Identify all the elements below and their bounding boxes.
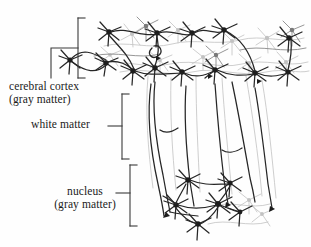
projection-axon-mid-left: [185, 86, 194, 206]
cortical-association-fiber-12: [72, 52, 106, 60]
white-matter-bracket: [122, 94, 129, 159]
faint-cortical-cell-e: [192, 49, 215, 70]
neuroanatomy-figure: cerebral cortex (gray matter) white matt…: [0, 0, 311, 247]
cortical-neuron-3: [98, 22, 121, 46]
label-nucleus: nucleus (gray matter): [37, 185, 133, 210]
mid-cortical-cell-b: [205, 46, 228, 70]
faint-cortical-fiber-1: [104, 38, 304, 46]
faint-axon-6: [262, 80, 276, 198]
nucleus-fiber-2: [178, 205, 217, 208]
nucleus-neuron-5: [186, 214, 211, 240]
label-white-matter: white matter: [31, 118, 90, 131]
faint-axon-2: [171, 78, 176, 190]
mid-cortical-cell-c: [281, 21, 304, 46]
label-nucleus-line1: nucleus: [67, 185, 103, 197]
cortical-neuron-13: [276, 61, 301, 86]
label-cerebral-cortex: cerebral cortex (gray matter): [9, 80, 79, 105]
nucleus-fiber-9: [170, 212, 198, 216]
axon-collateral-2: [222, 148, 242, 152]
axon-collateral-1: [160, 128, 178, 132]
mid-cortical-cell-a: [135, 17, 158, 40]
projection-axon-right: [255, 88, 272, 208]
projection-axon-left-2: [149, 84, 164, 216]
label-cerebral-cortex-line1: cerebral cortex: [9, 80, 79, 92]
cortical-arrowhead-3: [257, 79, 262, 84]
cortical-arrowhead-2: [208, 74, 213, 79]
label-nucleus-line2: (gray matter): [37, 198, 133, 211]
cortical-neuron-2: [143, 57, 168, 82]
label-cerebral-cortex-line2: (gray matter): [9, 93, 79, 106]
faint-axon-5: [246, 76, 262, 196]
faint-nucleus-fiber-2: [208, 222, 268, 224]
nucleus-fiber-4: [219, 186, 230, 202]
projection-axon-mid-right: [232, 82, 255, 202]
label-white-matter-line1: white matter: [31, 118, 90, 130]
cortical-association-fiber-9: [194, 30, 224, 33]
projection-axon-left: [154, 82, 170, 212]
faint-cortical-cell-a: [121, 24, 143, 47]
mid-cortical-fiber-2: [240, 48, 306, 50]
